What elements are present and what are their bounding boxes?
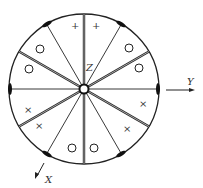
svg-text:+: + (71, 20, 79, 31)
z-axis-label: Z (85, 62, 94, 73)
svg-text:×: × (139, 98, 147, 109)
svg-text:×: × (35, 120, 43, 131)
svg-text:+: + (92, 20, 100, 31)
y-axis-arrow (166, 88, 195, 92)
center-hub (80, 85, 89, 94)
y-axis-label: Y (187, 76, 195, 87)
svg-text:×: × (123, 123, 131, 134)
diagram-canvas: + + × × × × Z Y X (0, 0, 203, 188)
plus-marks: + + (71, 20, 100, 31)
x-axis-arrow (35, 163, 44, 179)
x-axis-label: X (44, 174, 53, 185)
svg-text:×: × (24, 104, 32, 115)
